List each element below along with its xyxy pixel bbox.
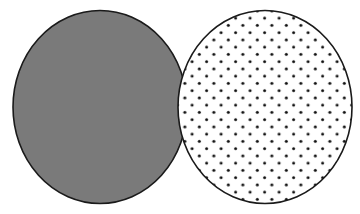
left-circle-gray xyxy=(13,11,187,204)
venn-diagram xyxy=(0,0,360,214)
right-circle-dotted xyxy=(178,11,352,204)
